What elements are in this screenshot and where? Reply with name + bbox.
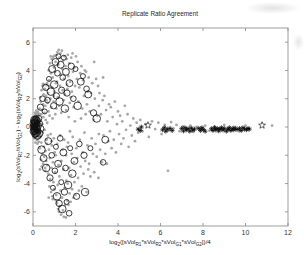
data-points	[30, 49, 273, 219]
replicate-ratio-dots-point	[46, 121, 49, 124]
replicate-ratio-dots-point	[84, 160, 87, 163]
replicate-ratio-dots-point	[71, 136, 74, 139]
y-tick-label: -6	[24, 208, 30, 215]
replicate-ratio-dots-point	[102, 76, 105, 79]
replicate-ratio-dots-point	[61, 89, 64, 92]
replicate-ratio-dots-point	[57, 49, 60, 52]
replicate-ratio-dots-point	[44, 119, 47, 122]
flagged-spot-circles-point	[81, 152, 87, 158]
replicate-ratio-dots-point	[71, 188, 74, 191]
saturated-spot-asterisks-point	[138, 128, 143, 133]
replicate-ratio-dots-point	[62, 209, 65, 212]
replicate-ratio-dots-point	[157, 121, 160, 124]
flagged-spot-circles-point	[74, 102, 82, 110]
flagged-spot-circles-point	[53, 193, 61, 201]
flagged-spot-circles-point	[102, 136, 109, 143]
replicate-ratio-dots-point	[101, 99, 104, 102]
replicate-ratio-dots-point	[70, 90, 73, 93]
replicate-ratio-dots-point	[178, 130, 181, 133]
replicate-ratio-dots-point	[88, 162, 91, 165]
replicate-ratio-dots-point	[67, 116, 70, 119]
x-axis-label: log2([sVolR1*sVolR2*sVolG1*sVolG2])/4	[109, 238, 211, 247]
flagged-spot-circles-point	[88, 146, 93, 151]
replicate-ratio-dots-point	[112, 138, 115, 141]
replicate-ratio-dots-point	[42, 93, 45, 96]
replicate-ratio-dots-point	[93, 61, 96, 64]
flagged-spot-circles-point	[62, 68, 69, 75]
replicate-ratio-dots-point	[44, 104, 47, 107]
replicate-ratio-dots-point	[52, 137, 55, 140]
replicate-ratio-dots-point	[42, 116, 45, 119]
replicate-ratio-dots-point	[80, 185, 83, 188]
replicate-ratio-dots-point	[79, 165, 82, 168]
replicate-ratio-dots-point	[51, 117, 54, 120]
control-spot-stars-point	[145, 122, 152, 129]
replicate-ratio-dots-point	[87, 168, 90, 171]
replicate-ratio-dots-point	[65, 109, 68, 112]
replicate-ratio-dots-point	[74, 85, 77, 88]
replicate-ratio-dots-point	[72, 161, 75, 164]
replicate-ratio-dots-point	[90, 137, 93, 140]
replicate-ratio-dots-point	[103, 94, 106, 97]
replicate-ratio-dots-point	[56, 184, 59, 187]
replicate-ratio-dots-point	[78, 138, 81, 141]
replicate-ratio-dots-point	[91, 82, 94, 85]
replicate-ratio-dots-point	[75, 55, 78, 58]
replicate-ratio-dots-point	[68, 102, 71, 105]
replicate-ratio-dots-point	[69, 130, 72, 133]
saturated-spot-asterisks-point	[203, 129, 208, 134]
replicate-ratio-dots-point	[111, 116, 114, 119]
flagged-spot-circles-point	[69, 170, 77, 178]
replicate-ratio-dots-point	[77, 177, 80, 180]
x-tick-label: 4	[116, 229, 120, 236]
flagged-spot-circles-point	[77, 78, 84, 85]
saturated-spot-asterisks-point	[247, 127, 252, 132]
flagged-spot-circles-point	[68, 146, 73, 151]
flagged-spot-circles-point	[61, 105, 69, 113]
replicate-ratio-dots-point	[85, 191, 88, 194]
replicate-ratio-dots-point	[121, 120, 124, 123]
replicate-ratio-dots-point	[40, 89, 43, 92]
replicate-ratio-dots-point	[167, 169, 170, 172]
replicate-ratio-dots-point	[132, 117, 135, 120]
replicate-ratio-dots-point	[105, 109, 108, 112]
replicate-ratio-dots-point	[108, 103, 111, 106]
replicate-ratio-dots-point	[85, 70, 88, 73]
replicate-ratio-dots-point	[54, 61, 57, 64]
replicate-ratio-dots-point	[49, 178, 52, 181]
flagged-spot-circles-point	[49, 152, 55, 158]
replicate-ratio-dots-point	[83, 131, 86, 134]
replicate-ratio-dots-point	[44, 167, 47, 170]
replicate-ratio-dots-point	[118, 133, 121, 136]
flagged-spot-circles-point	[56, 98, 64, 106]
replicate-ratio-dots-point	[68, 192, 71, 195]
replicate-ratio-dots-point	[47, 196, 50, 199]
replicate-ratio-dots-point	[139, 119, 142, 122]
replicate-ratio-dots-point	[129, 124, 132, 127]
flagged-spot-circles-point	[38, 146, 46, 154]
replicate-ratio-dots-point	[97, 133, 100, 136]
replicate-ratio-dots-point	[127, 145, 130, 148]
replicate-ratio-dots-point	[52, 161, 55, 164]
x-tick-label: 2	[74, 229, 78, 236]
replicate-ratio-dots-point	[64, 65, 67, 68]
replicate-ratio-dots-point	[66, 182, 69, 185]
y-tick-label: 0	[26, 123, 30, 130]
replicate-ratio-dots-point	[117, 110, 120, 113]
y-tick-label: 6	[26, 39, 30, 46]
replicate-ratio-dots-point	[48, 114, 51, 117]
replicate-ratio-dots-point	[80, 117, 83, 120]
saturated-spot-asterisks-point	[139, 125, 144, 130]
replicate-ratio-dots-point	[54, 113, 57, 116]
replicate-ratio-dots-point	[93, 171, 96, 174]
replicate-ratio-dots-point	[73, 120, 76, 123]
replicate-ratio-dots-point	[175, 123, 178, 126]
replicate-ratio-dots-point	[69, 80, 72, 83]
replicate-ratio-dots-point	[73, 181, 76, 184]
x-tick-label: 6	[159, 229, 163, 236]
replicate-ratio-dots-point	[119, 114, 122, 117]
replicate-ratio-dots-point	[70, 174, 73, 177]
y-tick-label: 4	[26, 67, 30, 74]
replicate-ratio-dots-point	[75, 147, 78, 150]
replicate-ratio-dots-point	[55, 193, 58, 196]
